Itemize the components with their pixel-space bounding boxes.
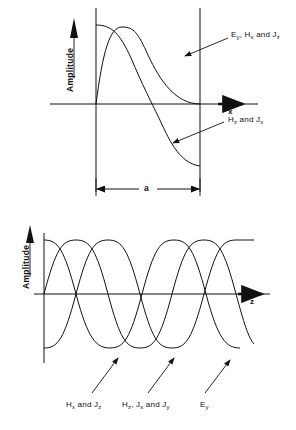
leader-line-hz bbox=[173, 122, 224, 143]
leader-line-hx-jz bbox=[92, 358, 118, 393]
annotation-ey-hx-jz: Ey, Hx and Jz bbox=[231, 31, 280, 39]
annotation-ey-bottom: Ey bbox=[200, 401, 209, 409]
annotation-hz-jx-jy: Hz, Jx and Jy bbox=[122, 401, 170, 409]
annotation-hx-jz: Hx and Jz bbox=[66, 401, 101, 409]
curve-ey-hx-jz bbox=[96, 27, 200, 104]
annotation-hz-jx: Hz and Jx bbox=[228, 116, 263, 124]
leader-line-hz-jx-jy bbox=[148, 358, 174, 393]
dimension-label-a: a bbox=[144, 184, 149, 193]
chart-transverse: Amplitude x Ey, Hx and Jz Hz and Jx a bbox=[0, 0, 296, 215]
amplitude-arrow-top bbox=[70, 18, 78, 38]
amplitude-arrow-bottom bbox=[26, 225, 34, 243]
amplitude-label-bottom: Amplitude bbox=[22, 245, 31, 289]
chart-longitudinal: Amplitude z Hx and Jz Hz, Jx and Jy Ey bbox=[0, 215, 296, 430]
amplitude-label-top: Amplitude bbox=[66, 48, 75, 92]
waveguide-field-figure: Amplitude x Ey, Hx and Jz Hz and Jx a bbox=[0, 0, 296, 430]
leader-line-ey bbox=[185, 38, 228, 56]
curve-hz-jx bbox=[96, 25, 200, 166]
leader-line-ey2 bbox=[205, 360, 230, 393]
z-axis-label: z bbox=[250, 298, 254, 306]
